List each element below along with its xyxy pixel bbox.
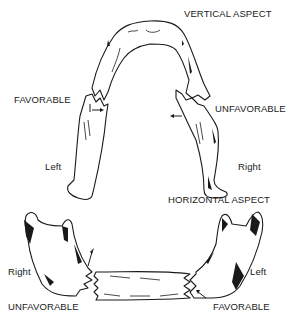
vertical-right-side-label: Right [238,161,261,172]
vertical-unfavorable-label: UNFAVORABLE [215,103,286,114]
vertical-aspect-title: VERTICAL ASPECT [184,8,272,19]
horizontal-left-side-label: Left [250,266,266,277]
horizontal-aspect-title: HORIZONTAL ASPECT [168,194,270,205]
horizontal-favorable-label: FAVORABLE [213,301,270,312]
horizontal-right-side-label: Right [8,266,31,277]
vertical-favorable-label: FAVORABLE [14,94,71,105]
horizontal-unfavorable-label: UNFAVORABLE [8,301,79,312]
vertical-left-side-label: Left [45,161,61,172]
horizontal-aspect-mandible [24,212,263,300]
vertical-aspect-mandible [68,21,228,199]
